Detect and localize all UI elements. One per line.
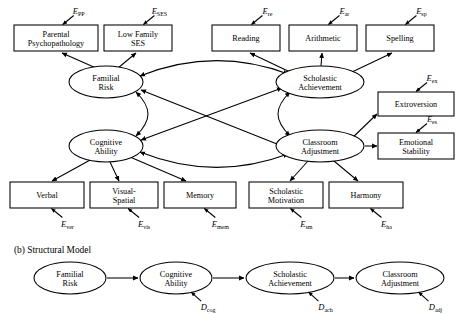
covariance-familial-risk-classroom-adjustment (141, 90, 282, 146)
error-label-low-family-ses: ESES (151, 6, 168, 17)
error-label-parental-psychopathology: EPP (72, 6, 86, 17)
diagram-canvas: ParentalPsychopathologyLow FamilySESRead… (0, 0, 465, 314)
indicator-label-verbal: Verbal (36, 191, 58, 200)
disturbance-arrow-scholastic-achievement (308, 292, 318, 301)
indicator-label-reading: Reading (232, 34, 259, 43)
error-arrow-harmony (370, 209, 381, 218)
error-arrow-reading (251, 16, 262, 25)
path-cognitive-ability-to-verbal (52, 159, 92, 181)
indicator-label-harmony: Harmony (351, 191, 383, 200)
right-indicator-boxes: ExtroversionEmotionalStability (378, 92, 454, 159)
error-label-memory: Emem (211, 219, 230, 230)
error-arrow-visual-spatial (128, 209, 139, 218)
path-scholastic-achievement-to-reading (250, 53, 290, 72)
latent-factor-ellipses: FamilialRiskCognitiveAbilityScholasticAc… (69, 66, 364, 162)
indicator-label-memory: Memory (186, 191, 215, 200)
error-label-reading: Ere (262, 6, 273, 17)
error-arrow-verbal (51, 209, 62, 218)
covariance-familial-risk-scholastic-achievement (140, 61, 288, 76)
error-arrow-arithmetic (328, 16, 339, 25)
error-arrow-extroversion (416, 83, 427, 92)
structural-factor-label-scholastic-achievement: ScholasticAchievement (268, 270, 312, 288)
covariance-cognitive-ability-scholastic-achievement (141, 88, 282, 140)
error-label-arithmetic: Ear (339, 6, 350, 17)
path-familial-risk-to-parental-psychopathology (62, 53, 96, 68)
path-classroom-adjustment-to-scholastic-motivation (290, 161, 308, 181)
indicator-label-spelling: Spelling (386, 34, 413, 43)
covariance-scholastic-achievement-classroom-adjustment (278, 92, 290, 136)
path-scholastic-achievement-to-arithmetic (321, 53, 322, 66)
error-label-harmony: Eha (380, 219, 392, 230)
panel-b-label: (b) Structural Model (14, 245, 91, 256)
covariance-cognitive-ability-classroom-adjustment (140, 152, 288, 167)
sem-figure: ParentalPsychopathologyLow FamilySESRead… (0, 0, 465, 314)
error-arrow-emotional-stability (416, 124, 427, 133)
error-arrow-low-family-ses (143, 16, 154, 25)
error-label-visual-spatial: Evis (137, 219, 151, 230)
structural-factor-label-classroom-adjustment: ClassroomAdjustment (381, 270, 420, 288)
error-arrow-parental-psychopathology (63, 16, 74, 25)
covariance-familial-risk-cognitive-ability (136, 92, 148, 136)
error-arrow-spelling (405, 16, 416, 25)
path-scholastic-achievement-to-spelling (352, 53, 392, 72)
path-cognitive-ability-to-visual-spatial (110, 162, 119, 181)
disturbance-labels: DcogDachDadj (200, 302, 443, 313)
paths-between-factors (136, 61, 290, 168)
indicator-label-extroversion: Extroversion (395, 100, 437, 109)
disturbance-arrow-classroom-adjustment (418, 292, 428, 301)
disturbance-label-scholastic-achievement: Dach (317, 302, 332, 313)
error-arrow-scholastic-motivation (290, 209, 301, 218)
disturbance-label-classroom-adjustment: Dadj (428, 302, 443, 313)
factor-label-classroom-adjustment: ClassroomAdjustment (301, 138, 340, 156)
path-familial-risk-to-low-family-ses (118, 53, 136, 68)
error-label-scholastic-motivation: Esm (299, 219, 313, 230)
factor-label-scholastic-achievement: ScholasticAchievement (298, 74, 342, 92)
disturbance-label-cognitive-ability: Dcog (200, 302, 216, 313)
error-label-verbal: Ever (60, 219, 74, 230)
path-cognitive-ability-to-memory (130, 157, 186, 181)
indicator-label-scholastic-motivation: ScholasticMotivation (268, 187, 304, 205)
error-label-spelling: Esp (415, 6, 427, 17)
bottom-indicator-boxes: VerbalVisual-SpatialMemoryScholasticMoti… (10, 182, 403, 208)
error-arrow-memory (204, 209, 215, 218)
indicator-label-emotional-stability: EmotionalStability (399, 138, 434, 156)
error-label-extroversion: Eex (426, 73, 438, 84)
top-indicator-boxes: ParentalPsychopathologyLow FamilySESRead… (14, 25, 434, 51)
indicator-label-arithmetic: Arithmetic (305, 34, 341, 43)
indicator-label-visual-spatial: Visual-Spatial (112, 187, 136, 205)
path-classroom-adjustment-to-harmony (334, 161, 358, 181)
disturbance-arrow-cognitive-ability (191, 292, 201, 301)
